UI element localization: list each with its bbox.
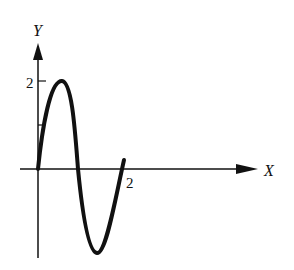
y-axis-label: Y — [33, 22, 44, 39]
y-axis-arrow-icon — [33, 43, 43, 60]
y-tick-label: 2 — [26, 75, 34, 91]
chart-canvas: Y X 2 2 — [0, 0, 294, 270]
x-axis-label: X — [263, 162, 275, 179]
x-tick-label: 2 — [126, 175, 134, 191]
curve-series — [38, 81, 124, 253]
x-axis-arrow-icon — [236, 164, 258, 174]
